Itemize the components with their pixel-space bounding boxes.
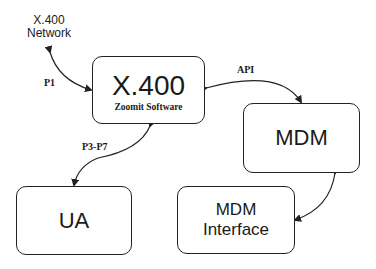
edge-label-p3-p7: P3-P7 [82, 142, 108, 152]
mdm-interface-node: MDM Interface [177, 186, 295, 254]
x400-title: X.400 [112, 72, 185, 100]
mdm-node: MDM [243, 103, 360, 173]
mdm-interface-line2: Interface [203, 220, 269, 240]
edge-mdm-interface [295, 173, 335, 220]
edge-api [206, 81, 301, 102]
edge-p3-p7 [74, 126, 150, 185]
x400-node: X.400 Zoomit Software [92, 56, 205, 124]
x400-subtitle: Zoomit Software [114, 102, 182, 112]
edge-label-api: API [237, 65, 254, 75]
edge-p1 [50, 52, 91, 90]
mdm-title: MDM [275, 127, 328, 149]
edge-label-p1: P1 [44, 78, 55, 88]
ua-title: UA [59, 210, 90, 232]
network-label-line1: X.400 [19, 14, 79, 26]
network-node: X.400 Network [19, 14, 79, 39]
mdm-interface-line1: MDM [216, 200, 257, 220]
ua-node: UA [16, 186, 132, 255]
network-label-line2: Network [19, 27, 79, 39]
